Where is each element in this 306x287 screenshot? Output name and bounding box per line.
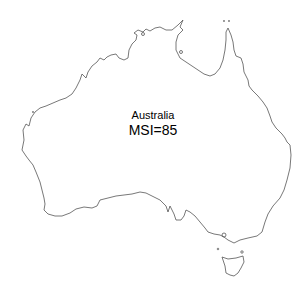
island-marker <box>142 33 145 36</box>
msi-value-label: MSI=85 <box>0 122 306 138</box>
tasmania-outline <box>222 256 244 276</box>
kangaroo-island <box>222 233 226 237</box>
country-label: Australia <box>0 109 306 121</box>
island-marker <box>228 20 229 21</box>
map-outline-svg <box>0 0 306 287</box>
island-marker <box>217 248 219 250</box>
island-marker <box>241 251 243 253</box>
australia-map <box>0 0 306 287</box>
island-marker <box>223 20 224 21</box>
island-marker <box>180 51 183 54</box>
